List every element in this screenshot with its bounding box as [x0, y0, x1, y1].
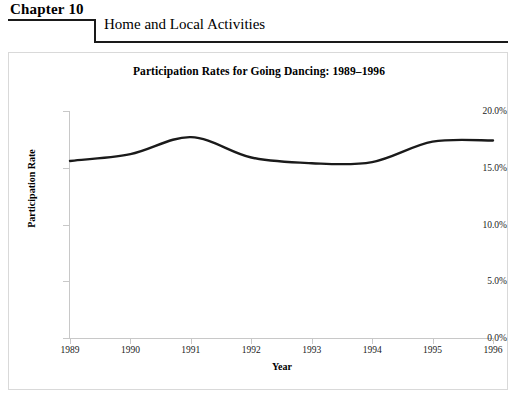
x-axis-tick: [251, 338, 252, 344]
y-axis-tick-label: 15.0%: [461, 163, 507, 173]
y-axis-tick: [63, 225, 70, 226]
y-axis-tick-label: 20.0%: [461, 106, 507, 116]
x-axis-tick-label: 1995: [423, 345, 442, 355]
series-line-going-dancing: [70, 137, 493, 164]
y-axis-tick: [63, 281, 70, 282]
x-axis-tick-label: 1990: [121, 345, 140, 355]
x-axis-line: [70, 338, 494, 339]
header-rule-upper: [8, 19, 96, 21]
x-axis-tick-label: 1996: [484, 345, 503, 355]
y-axis-tick: [63, 111, 70, 112]
x-axis-tick-label: 1993: [302, 345, 321, 355]
x-axis-tick-label: 1992: [242, 345, 261, 355]
x-axis-tick: [312, 338, 313, 344]
y-axis-tick-label: 10.0%: [461, 220, 507, 230]
x-axis-tick: [130, 338, 131, 344]
y-axis-tick: [63, 168, 70, 169]
y-axis-tick-label: 5.0%: [461, 276, 507, 286]
x-axis-tick-label: 1989: [61, 345, 80, 355]
header-rule-lower: [94, 41, 508, 43]
header-rule-step-connector: [94, 19, 96, 43]
y-axis-tick: [63, 338, 70, 339]
x-axis-tick: [70, 338, 71, 344]
chart-figure: Participation Rates for Going Dancing: 1…: [8, 52, 508, 390]
y-axis-tick-label: 0.0%: [461, 333, 507, 343]
series-plot: [9, 53, 509, 391]
x-axis-tick: [493, 338, 494, 344]
page-header: Chapter 10 Home and Local Activities: [0, 0, 516, 50]
section-title: Home and Local Activities: [104, 16, 265, 33]
x-axis-tick-label: 1991: [181, 345, 200, 355]
x-axis-tick: [372, 338, 373, 344]
x-axis-tick-label: 1994: [363, 345, 382, 355]
x-axis-title: Year: [70, 361, 494, 372]
x-axis-tick: [433, 338, 434, 344]
chapter-label: Chapter 10: [10, 1, 84, 18]
chart-title: Participation Rates for Going Dancing: 1…: [9, 65, 509, 77]
x-axis-tick: [191, 338, 192, 344]
y-axis-title: Participation Rate: [26, 129, 37, 249]
